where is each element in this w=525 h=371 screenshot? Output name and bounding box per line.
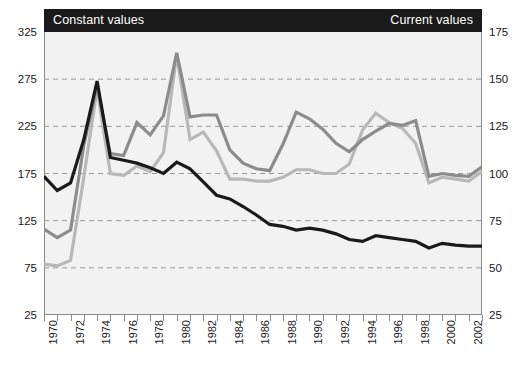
x-tick-label: 1978 [154,320,165,344]
x-tick-label: 2002 [473,320,484,344]
left-y-tick-label: 25 [24,309,37,321]
x-tick-label: 2000 [446,320,457,344]
right-y-tick-label: 50 [489,262,502,274]
series-line [44,55,482,266]
x-tick-label: 1998 [420,320,431,344]
x-tick-label: 1986 [260,320,271,344]
x-tick-label: 1982 [207,320,218,344]
x-tick-label: 1990 [313,320,324,344]
right-axis-caption: Current values [390,12,473,29]
x-tick-label: 1976 [128,320,139,344]
x-tick-label: 1996 [393,320,404,344]
x-tick-label: 1972 [75,320,86,344]
right-y-tick-label: 25 [489,309,502,321]
chart-figure: Constant values Current values 325275225… [0,0,525,371]
chart-header-band: Constant values Current values [44,9,482,32]
right-y-tick-label: 150 [489,73,508,85]
left-y-tick-label: 125 [18,215,37,227]
x-tick-label: 1994 [367,320,378,344]
left-y-tick-label: 275 [18,73,37,85]
x-tick-label: 1970 [48,320,59,344]
plot-svg [44,32,482,315]
right-y-tick-label: 125 [489,120,508,132]
x-tick-label: 1988 [287,320,298,344]
left-y-tick-label: 225 [18,120,37,132]
left-y-tick-label: 325 [18,26,37,38]
left-axis-caption: Constant values [53,12,144,29]
x-tick-label: 1984 [234,320,245,344]
left-y-tick-label: 75 [24,262,37,274]
left-y-tick-label: 175 [18,168,37,180]
x-tick-label: 1980 [181,320,192,344]
right-y-tick-label: 175 [489,26,508,38]
data-lines [44,53,482,266]
x-tick-label: 1992 [340,320,351,344]
right-y-tick-label: 100 [489,168,508,180]
right-y-tick-label: 75 [489,215,502,227]
x-axis-ticks: 1970197219741976197819801982198419861988… [44,320,482,370]
x-tick-label: 1974 [101,320,112,344]
